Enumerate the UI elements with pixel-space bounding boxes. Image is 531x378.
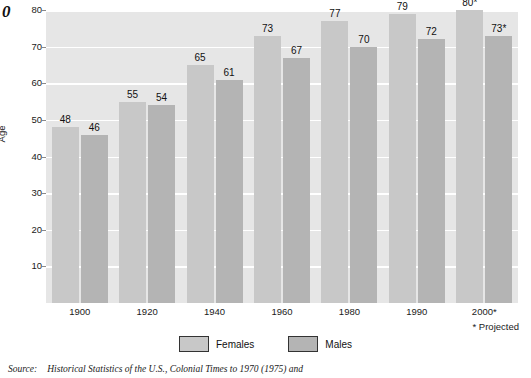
y-tick-label-10: 10 xyxy=(2,261,42,270)
y-tick-label-20: 20 xyxy=(2,225,42,234)
legend-label-females: Females xyxy=(216,339,254,350)
legend-item-females[interactable]: Females xyxy=(179,336,254,352)
bar-value-label: 73 xyxy=(262,23,273,34)
x-tick-label-1990: 1990 xyxy=(406,306,427,317)
x-tick-label-1920: 1920 xyxy=(137,306,158,317)
bar-males-1990[interactable]: 72 xyxy=(418,39,445,303)
bar-females-1900[interactable]: 48 xyxy=(52,127,79,303)
bar-value-label: 65 xyxy=(194,52,205,63)
bar-females-1960[interactable]: 73 xyxy=(254,36,281,303)
bar-females-1940[interactable]: 65 xyxy=(187,65,214,303)
x-tick-label-1900: 1900 xyxy=(69,306,90,317)
bar-males-1940[interactable]: 61 xyxy=(216,80,243,303)
bar-group-2000: 80*73* xyxy=(451,10,518,303)
bar-group-1980: 7770 xyxy=(316,10,383,303)
bar-group-1900: 4846 xyxy=(46,10,113,303)
bar-value-label: 80* xyxy=(462,0,477,8)
y-tick-label-50: 50 xyxy=(2,115,42,124)
x-tick-label-1960: 1960 xyxy=(271,306,292,317)
x-tick-label-2000: 2000* xyxy=(472,306,497,317)
y-tick-label-40: 40 xyxy=(2,152,42,161)
legend-swatch-females xyxy=(179,336,209,352)
bar-value-label: 70 xyxy=(358,34,369,45)
y-axis-tick-labels: 1020304050607080 xyxy=(0,0,42,310)
legend-swatch-males xyxy=(288,336,318,352)
bar-males-1900[interactable]: 46 xyxy=(81,135,108,303)
bar-value-label: 46 xyxy=(89,122,100,133)
source-label: Source: xyxy=(8,364,37,374)
chart-legend: FemalesMales xyxy=(0,336,531,352)
legend-item-males[interactable]: Males xyxy=(288,336,352,352)
plot-area: 48465554656173677770797280*73* xyxy=(46,10,518,303)
bar-value-label: 73* xyxy=(491,23,506,34)
bar-group-1960: 7367 xyxy=(248,10,315,303)
bar-value-label: 67 xyxy=(291,45,302,56)
bar-males-1980[interactable]: 70 xyxy=(350,47,377,303)
y-tick-label-80: 80 xyxy=(2,5,42,14)
bar-value-label: 61 xyxy=(223,67,234,78)
bar-value-label: 77 xyxy=(329,8,340,19)
projected-footnote: * Projected xyxy=(473,321,519,332)
bar-value-label: 54 xyxy=(156,92,167,103)
bar-females-1990[interactable]: 79 xyxy=(389,14,416,303)
x-tick-label-1940: 1940 xyxy=(204,306,225,317)
y-tick-label-60: 60 xyxy=(2,78,42,87)
y-tick-label-30: 30 xyxy=(2,188,42,197)
y-tick-label-70: 70 xyxy=(2,42,42,51)
chart-page: 0 Age 1020304050607080 48465554656173677… xyxy=(0,0,531,378)
bar-males-1920[interactable]: 54 xyxy=(148,105,175,303)
bar-value-label: 48 xyxy=(60,114,71,125)
legend-label-males: Males xyxy=(325,339,352,350)
bar-females-1980[interactable]: 77 xyxy=(321,21,348,303)
bar-value-label: 79 xyxy=(397,1,408,12)
x-axis-tick-labels: 1900192019401960198019902000* xyxy=(46,306,518,320)
source-note: Source: Historical Statistics of the U.S… xyxy=(8,364,303,374)
bar-females-1920[interactable]: 55 xyxy=(119,102,146,303)
bar-value-label: 55 xyxy=(127,89,138,100)
bar-males-1960[interactable]: 67 xyxy=(283,58,310,303)
bar-group-1940: 6561 xyxy=(181,10,248,303)
bar-groups: 48465554656173677770797280*73* xyxy=(46,10,518,303)
bar-value-label: 72 xyxy=(426,26,437,37)
source-text: Historical Statistics of the U.S., Colon… xyxy=(47,364,303,374)
bar-females-2000[interactable]: 80* xyxy=(456,10,483,303)
bar-group-1990: 7972 xyxy=(383,10,450,303)
bar-males-2000[interactable]: 73* xyxy=(485,36,512,303)
bar-group-1920: 5554 xyxy=(113,10,180,303)
x-tick-label-1980: 1980 xyxy=(339,306,360,317)
